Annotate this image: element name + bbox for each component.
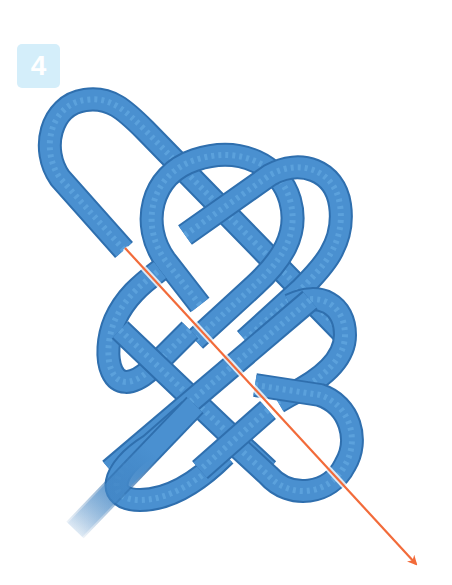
rope-strands-under (50, 99, 352, 500)
knot-illustration (0, 0, 452, 585)
